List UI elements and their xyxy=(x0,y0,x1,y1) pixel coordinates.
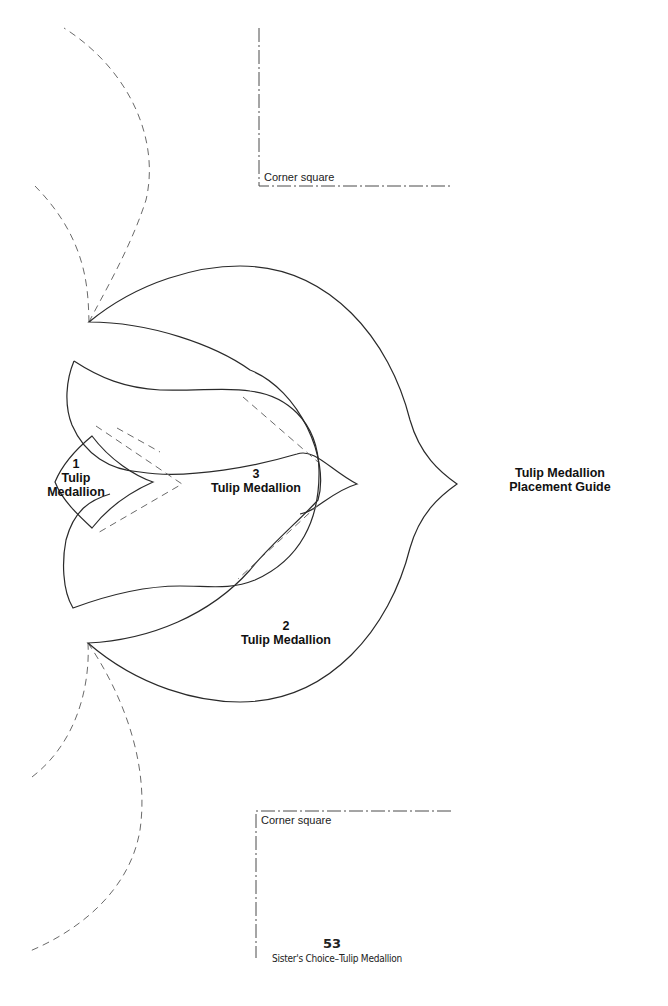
page-number: 53 xyxy=(302,936,362,951)
piece-2-label: 2 Tulip Medallion xyxy=(226,619,346,647)
diagram-title: Tulip Medallion Placement Guide xyxy=(500,466,620,494)
lower-dashed-guides xyxy=(30,643,142,951)
top-corner-square-outline xyxy=(259,28,452,186)
footer-caption: Sister's Choice–Tulip Medallion xyxy=(243,952,432,965)
piece-1-name-line-1: Tulip xyxy=(44,471,108,485)
piece-3-name: Tulip Medallion xyxy=(196,481,316,495)
piece-1-name-line-2: Medallion xyxy=(44,485,108,499)
piece-1-label: 1 Tulip Medallion xyxy=(44,457,108,499)
placement-diagram xyxy=(0,0,668,1006)
diagram-title-line-2: Placement Guide xyxy=(500,480,620,494)
piece-1-number: 1 xyxy=(44,457,108,471)
diagram-title-line-1: Tulip Medallion xyxy=(500,466,620,480)
piece-2-number: 2 xyxy=(226,619,346,633)
piece-3-label: 3 Tulip Medallion xyxy=(196,467,316,495)
piece-1-dashed-guide xyxy=(96,426,182,534)
piece-3-number: 3 xyxy=(196,467,316,481)
top-corner-square-label: Corner square xyxy=(264,171,334,183)
upper-dashed-guides xyxy=(35,28,149,322)
piece-2-name: Tulip Medallion xyxy=(226,633,346,647)
bottom-corner-square-label: Corner square xyxy=(261,814,331,826)
